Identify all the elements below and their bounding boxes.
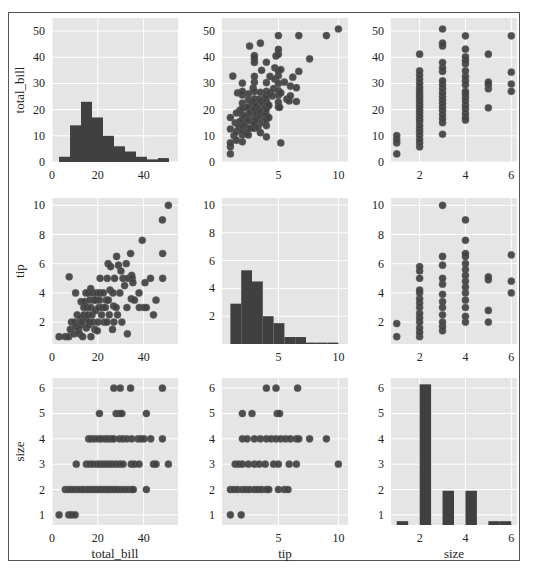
y-tick-label: 5 [378, 406, 384, 420]
scatter-point [239, 410, 246, 417]
scatter-point [439, 131, 446, 138]
x-tick-label: 10 [332, 350, 344, 364]
scatter-point [508, 251, 515, 258]
scatter-point [135, 461, 142, 468]
scatter-point [306, 55, 313, 62]
y-tick-label: 6 [378, 381, 384, 395]
y-tick-label: 3 [378, 457, 384, 471]
scatter-point [117, 267, 124, 274]
scatter-point [150, 311, 157, 318]
x-tick-label: 6 [508, 168, 514, 182]
x-tick-label: 2 [417, 168, 423, 182]
y-tick-label: 2 [209, 309, 215, 323]
y-tick-label: 4 [378, 286, 384, 300]
y-tick-label: 4 [39, 286, 45, 300]
scatter-point [165, 461, 172, 468]
scatter-point [439, 25, 446, 32]
scatter-point [152, 297, 159, 304]
hist-bar [158, 158, 169, 162]
scatter-point [335, 25, 342, 32]
scatter-point [462, 304, 469, 311]
scatter-point [462, 297, 469, 304]
x-tick-label: 2 [417, 350, 423, 364]
scatter-point [287, 92, 294, 99]
scatter-point [113, 304, 120, 311]
scatter-point [439, 262, 446, 269]
scatter-point [416, 275, 423, 282]
y-axis-label: size [12, 441, 27, 461]
scatter-point [323, 32, 330, 39]
scatter-point [130, 486, 137, 493]
y-tick-label: 10 [33, 198, 45, 212]
y-tick-label: 1 [39, 508, 45, 522]
y-tick-label: 10 [33, 129, 45, 143]
plot-area [391, 18, 517, 162]
x-tick-label: 6 [508, 531, 514, 545]
hist-bar [241, 270, 252, 344]
y-tick-label: 30 [33, 76, 45, 90]
scatter-point [277, 66, 284, 73]
y-tick-label: 50 [203, 24, 215, 38]
scatter-point [295, 32, 302, 39]
scatter-point [123, 304, 130, 311]
panel-r2-c0: 02040123456sizetotal_bill [12, 378, 178, 561]
scatter-point [284, 486, 291, 493]
scatter-point [485, 273, 492, 280]
scatter-point [485, 79, 492, 86]
panel-r0-c0: 0204001020304050total_bill [12, 18, 178, 182]
scatter-point [87, 333, 94, 340]
scatter-point [257, 129, 264, 136]
scatter-point [393, 150, 400, 157]
scatter-point [439, 40, 446, 47]
y-tick-label: 6 [39, 257, 45, 271]
scatter-point [508, 80, 515, 87]
x-tick-label: 5 [275, 531, 281, 545]
scatter-point [439, 275, 446, 282]
x-tick-label: 20 [92, 350, 104, 364]
scatter-point [56, 511, 63, 518]
y-tick-label: 10 [372, 129, 384, 143]
hist-bar [125, 152, 136, 162]
scatter-point [118, 319, 125, 326]
y-tick-label: 50 [33, 24, 45, 38]
scatter-point [263, 133, 270, 140]
scatter-point [293, 84, 300, 91]
scatter-point [258, 67, 265, 74]
scatter-point [439, 59, 446, 66]
scatter-point [106, 311, 113, 318]
scatter-point [135, 289, 142, 296]
x-tick-label: 2 [417, 531, 423, 545]
scatter-point [462, 32, 469, 39]
x-tick-label: 4 [462, 531, 468, 545]
scatter-point [257, 40, 264, 47]
panel-r0-c2: 24601020304050 [372, 18, 517, 182]
scatter-point [276, 410, 283, 417]
plot-area [52, 378, 178, 525]
scatter-point [393, 320, 400, 327]
scatter-point [127, 385, 134, 392]
pairplot-chart: 0204001020304050total_bill51001020304050… [0, 0, 541, 576]
hist-bar [420, 384, 431, 525]
scatter-point [393, 333, 400, 340]
x-tick-label: 20 [92, 531, 104, 545]
scatter-point [462, 88, 469, 95]
scatter-point [262, 461, 269, 468]
y-tick-label: 2 [209, 483, 215, 497]
hist-bar [81, 102, 92, 162]
scatter-point [96, 297, 103, 304]
scatter-point [462, 313, 469, 320]
x-tick-label: 6 [508, 350, 514, 364]
y-tick-label: 6 [39, 381, 45, 395]
x-tick-label: 0 [49, 168, 55, 182]
scatter-point [462, 260, 469, 267]
hist-bar [59, 157, 70, 162]
scatter-point [227, 150, 234, 157]
scatter-point [306, 435, 313, 442]
x-tick-label: 40 [138, 168, 150, 182]
scatter-point [393, 132, 400, 139]
y-tick-label: 50 [372, 24, 384, 38]
scatter-point [416, 67, 423, 74]
scatter-point [227, 511, 234, 518]
scatter-point [159, 275, 166, 282]
hist-bar [328, 343, 339, 344]
